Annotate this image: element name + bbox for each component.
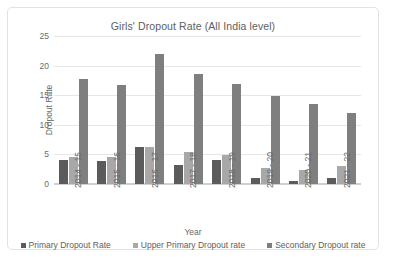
- legend-swatch: [133, 243, 138, 248]
- legend-swatch: [21, 243, 26, 248]
- bar[interactable]: [327, 178, 336, 185]
- x-axis-tick: 2017 - 18: [169, 186, 207, 232]
- legend-label: Upper Primary Dropout rate: [141, 240, 245, 250]
- legend-swatch: [267, 243, 272, 248]
- bar[interactable]: [59, 160, 68, 184]
- bar[interactable]: [289, 181, 298, 184]
- chart-frame: Girls' Dropout Rate (All India level) Dr…: [7, 7, 379, 250]
- gridline: [54, 184, 361, 185]
- x-axis-tick: 2014 - 15: [54, 186, 92, 232]
- x-axis-tick-label: 2021 - 22: [342, 152, 352, 188]
- legend-label: Secondary Dropout rate: [275, 240, 365, 250]
- y-axis-tick-label: 25: [40, 31, 49, 41]
- x-axis-tick-label: 2020 - 21: [303, 152, 313, 188]
- legend-item[interactable]: Primary Dropout Rate: [21, 240, 111, 250]
- y-axis-tick-label: 10: [40, 120, 49, 130]
- legend-label: Primary Dropout Rate: [29, 240, 111, 250]
- bar[interactable]: [135, 147, 144, 184]
- bar[interactable]: [251, 178, 260, 184]
- plot-area: 0510152025: [54, 36, 361, 184]
- x-axis-tick-label: 2018 - 19: [227, 152, 237, 188]
- y-axis-tick-label: 15: [40, 90, 49, 100]
- x-axis-tick-label: 2019 - 20: [265, 152, 275, 188]
- x-axis-tick-label: 2015 - 16: [112, 152, 122, 188]
- bar[interactable]: [174, 165, 183, 184]
- bar-groups: [54, 36, 361, 184]
- legend-item[interactable]: Upper Primary Dropout rate: [133, 240, 245, 250]
- x-axis-tick: 2018 - 19: [208, 186, 246, 232]
- x-axis-title: Year: [8, 227, 378, 237]
- x-axis-tick: 2019 - 20: [246, 186, 284, 232]
- x-axis-tick-labels: 2014 - 152015 - 162016 - 172017 - 182018…: [54, 186, 361, 232]
- x-axis-tick: 2020 - 21: [284, 186, 322, 232]
- bar[interactable]: [212, 160, 221, 184]
- y-axis-tick-label: 0: [44, 179, 49, 189]
- bar[interactable]: [97, 161, 106, 184]
- x-axis-tick: 2021 - 22: [323, 186, 361, 232]
- y-axis-tick-label: 5: [44, 149, 49, 159]
- legend-item[interactable]: Secondary Dropout rate: [267, 240, 365, 250]
- x-axis-tick-label: 2017 - 18: [188, 152, 198, 188]
- x-axis-tick-label: 2014 - 15: [73, 152, 83, 188]
- y-axis-tick-label: 20: [40, 61, 49, 71]
- x-axis-tick-label: 2016 - 17: [150, 152, 160, 188]
- x-axis-tick: 2016 - 17: [131, 186, 169, 232]
- chart-legend: Primary Dropout RateUpper Primary Dropou…: [8, 240, 378, 250]
- x-axis-tick: 2015 - 16: [92, 186, 130, 232]
- chart-title: Girls' Dropout Rate (All India level): [8, 20, 378, 32]
